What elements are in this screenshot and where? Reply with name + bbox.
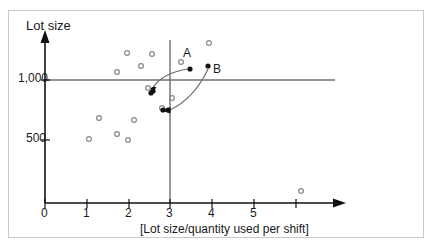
data-point-open xyxy=(125,51,130,56)
x-tick-label-3: 3 xyxy=(166,206,173,220)
data-point-open xyxy=(132,118,137,123)
y-axis-title: Lot size xyxy=(26,18,71,33)
annotation-label-b: B xyxy=(213,62,221,76)
y-tick-label-1000: 1,000 xyxy=(18,71,48,85)
data-point-open xyxy=(150,52,155,57)
data-point-open xyxy=(97,116,102,121)
open-marker-group xyxy=(87,41,304,194)
x-tick-label-5: 5 xyxy=(250,206,257,220)
y-tick-label-500: 500 xyxy=(26,131,46,145)
data-point-open xyxy=(87,137,92,142)
data-point-open xyxy=(207,41,212,46)
x-tick-label-4: 4 xyxy=(208,206,215,220)
x-tick-label-2: 2 xyxy=(125,206,132,220)
scatter-chart xyxy=(0,0,432,250)
data-point-open xyxy=(139,64,144,69)
data-point-open xyxy=(299,189,304,194)
x-tick-label-0: 0 xyxy=(41,206,48,220)
x-tick-label-1: 1 xyxy=(83,206,90,220)
data-point-b xyxy=(205,63,210,68)
data-point-open xyxy=(115,132,120,137)
x-axis-arrowhead xyxy=(333,199,346,208)
data-point-open xyxy=(179,60,184,65)
data-point-open xyxy=(115,70,120,75)
arrow-b-curve xyxy=(170,69,208,110)
x-axis-title: [Lot size/quantity used per shift] xyxy=(140,222,309,236)
data-point-open xyxy=(146,86,151,91)
annotation-label-a: A xyxy=(183,46,191,60)
data-point-open xyxy=(126,138,131,143)
data-point-a xyxy=(187,66,192,71)
